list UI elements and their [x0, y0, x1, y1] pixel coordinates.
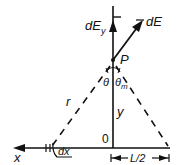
x-axis [13, 144, 170, 152]
label-dx: dx [58, 145, 70, 157]
label-half-length: L/2 [130, 152, 145, 164]
dEy-arrow-icon [109, 20, 117, 32]
point-p [111, 58, 115, 62]
half-length-arrow-left-icon [112, 155, 121, 161]
label-P: P [120, 52, 129, 67]
label-dE: dE [146, 14, 162, 29]
field-diagram: dEy dE P θ θm r y 0 x dx L/2 [0, 0, 183, 165]
label-theta: θ [103, 76, 109, 88]
label-dEy: dEy [85, 18, 106, 36]
label-r: r [66, 94, 71, 109]
label-origin: 0 [102, 132, 109, 146]
half-length-arrow-right-icon [159, 155, 168, 161]
label-x: x [13, 150, 21, 165]
label-y: y [116, 104, 125, 119]
dE-arrow-icon [132, 20, 143, 32]
label-theta-m: θm [115, 76, 128, 91]
theta-m-dashed-line [116, 66, 168, 146]
